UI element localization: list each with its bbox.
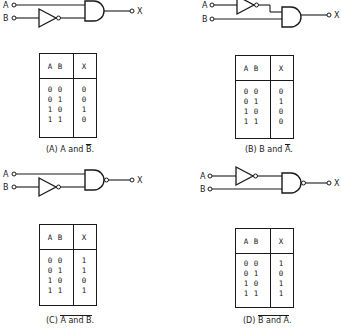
cell: 0	[275, 269, 287, 278]
caption-left: A	[60, 145, 65, 154]
output-x-label: X	[137, 7, 143, 16]
input-b-terminal	[210, 17, 214, 21]
output-terminal	[130, 9, 134, 13]
cell: 0	[54, 85, 66, 94]
circuit-d: A B X	[170, 160, 341, 230]
nand-gate-icon	[85, 170, 104, 190]
cell: 1	[78, 105, 90, 114]
circuit-a: A B X	[0, 0, 170, 60]
truth-table-d: A B X 0 0 1 0 1 0 1 0 1 1 1 1	[235, 228, 294, 308]
circuit-b: A B X	[170, 0, 341, 60]
caption-c: (C) A and B.	[46, 316, 94, 325]
caption-left: A	[60, 316, 65, 325]
output-terminal	[327, 181, 331, 185]
cell: 1	[275, 279, 287, 288]
header-b: B	[250, 64, 262, 73]
cell: 1	[54, 286, 66, 295]
cell: 1	[275, 97, 287, 106]
cell: 1	[54, 95, 66, 104]
caption-end: .	[92, 316, 95, 325]
caption-prefix: (D)	[243, 316, 255, 325]
cell: 1	[250, 269, 262, 278]
output-x-label: X	[334, 179, 340, 188]
input-a-terminal	[12, 3, 16, 7]
input-b-terminal	[12, 16, 16, 20]
header-b: B	[54, 62, 66, 71]
caption-mid: and	[68, 316, 83, 325]
input-a-label: A	[202, 1, 208, 10]
nand-bubble-icon	[105, 178, 109, 182]
output-terminal	[327, 13, 331, 17]
input-a-label: A	[200, 172, 206, 181]
input-a-terminal	[208, 174, 212, 178]
cell: 0	[250, 279, 262, 288]
cell: 1	[78, 286, 90, 295]
panel-a: A B X A B X 0 0 0 0 1 0 1 0 1	[0, 0, 170, 160]
cell: 1	[250, 289, 262, 298]
table-divider	[73, 225, 74, 305]
caption-end: .	[290, 145, 293, 154]
output-x-label: X	[334, 11, 340, 20]
header-x: X	[78, 233, 90, 242]
table-divider	[73, 54, 74, 137]
output-x-label: X	[137, 176, 143, 185]
cell: 0	[78, 85, 90, 94]
caption-left: B	[258, 316, 264, 325]
panel-b: A B X A B X 0 0 0 0 1 1 1 0	[170, 0, 341, 160]
output-terminal	[130, 178, 134, 182]
caption-prefix: (B)	[245, 145, 257, 154]
and-gate-icon	[282, 7, 301, 27]
input-a-label: A	[3, 1, 9, 10]
cell: 1	[54, 266, 66, 275]
input-a-label: A	[3, 170, 9, 179]
caption-a: (A) A and B.	[46, 145, 94, 154]
cell: 1	[78, 256, 90, 265]
cell: 1	[54, 115, 66, 124]
cell: 0	[250, 259, 262, 268]
cell: 0	[250, 107, 262, 116]
and-gate-icon	[85, 1, 104, 21]
inverter-icon	[236, 167, 253, 185]
inverter-icon	[237, 0, 254, 14]
header-b: B	[250, 237, 262, 246]
cell: 0	[275, 87, 287, 96]
input-a-terminal	[210, 3, 214, 7]
input-b-label: B	[200, 185, 206, 194]
truth-table-c: A B X 0 0 1 0 1 1 1 0 0 1 1 1	[39, 224, 97, 306]
inverter-icon	[39, 9, 56, 27]
header-x: X	[78, 62, 90, 71]
cell: 0	[250, 87, 262, 96]
table-divider	[270, 229, 271, 307]
caption-prefix: (A)	[46, 145, 58, 154]
inverter-icon	[39, 178, 56, 196]
input-b-label: B	[3, 14, 9, 23]
cell: 0	[54, 256, 66, 265]
caption-end: .	[91, 145, 94, 154]
cell: 0	[275, 117, 287, 126]
input-b-terminal	[208, 187, 212, 191]
input-a-terminal	[12, 172, 16, 176]
cell: 1	[78, 266, 90, 275]
cell: 1	[275, 289, 287, 298]
input-b-label: B	[3, 183, 9, 192]
input-b-label: B	[202, 15, 208, 24]
header-b: B	[54, 233, 66, 242]
header-x: X	[275, 237, 287, 246]
cell: 0	[54, 105, 66, 114]
panel-c: A B X A B X 0 0 1 0 1 1 1 0 0	[0, 160, 170, 334]
nand-bubble-icon	[302, 181, 306, 185]
cell: 0	[78, 276, 90, 285]
panel-d: A B X A B X 0 0 1 0 1 0 1 0 1	[170, 160, 341, 334]
nand-gate-icon	[282, 173, 301, 193]
caption-left: B	[259, 145, 265, 154]
truth-table-b: A B X 0 0 0 0 1 1 1 0 0 1 1 0	[235, 55, 294, 139]
header-x: X	[275, 64, 287, 73]
cell: 1	[250, 117, 262, 126]
caption-mid: and	[266, 316, 281, 325]
caption-end: .	[289, 316, 292, 325]
caption-b: (B) B and A.	[245, 145, 293, 154]
cell: 1	[275, 259, 287, 268]
cell: 1	[250, 97, 262, 106]
input-b-terminal	[12, 185, 16, 189]
truth-table-a: A B X 0 0 0 0 1 0 1 0 1 1 1 0	[39, 53, 97, 138]
